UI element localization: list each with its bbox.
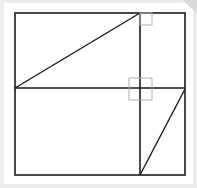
geometry-diagram: [0, 0, 197, 188]
diagonal-upper-left: [15, 13, 140, 88]
right-angle-marker-top: [140, 13, 152, 25]
diagonal-lower-right: [140, 89, 185, 175]
